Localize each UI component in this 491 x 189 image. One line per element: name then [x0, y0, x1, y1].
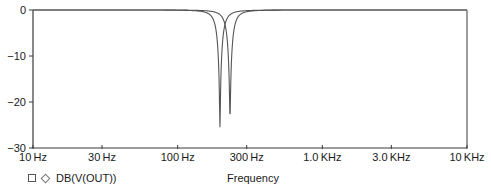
legend[interactable]: DB(V(OUT)) — [28, 171, 117, 185]
x-tick-label: 300 Hz — [217, 151, 277, 163]
x-tick-label: 100 Hz — [148, 151, 208, 163]
x-tick-label: 10 KHz — [437, 151, 491, 163]
square-marker-icon — [28, 174, 36, 182]
trace-line-1 — [33, 10, 467, 127]
legend-label: DB(V(OUT)) — [56, 172, 117, 184]
x-tick-label: 1.0 KHz — [292, 151, 352, 163]
y-tick-label: −20 — [0, 96, 26, 108]
y-tick-label: 0 — [0, 4, 26, 16]
x-tick-label: 10 Hz — [3, 151, 63, 163]
y-tick-label: −10 — [0, 50, 26, 62]
diamond-marker-icon — [41, 173, 51, 183]
traces — [33, 10, 467, 127]
trace-line-2 — [33, 10, 467, 114]
x-tick-label: 3.0 KHz — [361, 151, 421, 163]
plot-axes — [29, 10, 467, 149]
x-axis-title: Frequency — [227, 171, 279, 185]
x-tick-label: 30 Hz — [72, 151, 132, 163]
